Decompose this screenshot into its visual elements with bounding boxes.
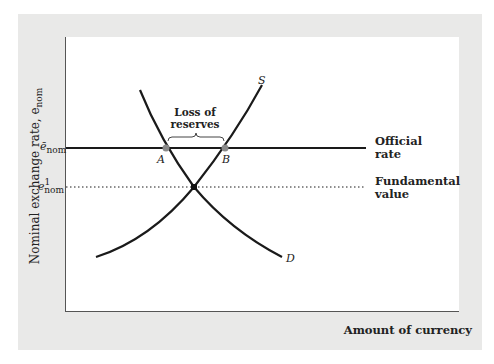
- supply-curve-label: S: [258, 74, 266, 87]
- fundamental-value-legend: Fundamentalvalue: [375, 175, 455, 201]
- point-b-label: B: [222, 153, 230, 166]
- x-axis-label: Amount of currency: [344, 323, 472, 337]
- fundamental-rate-tick: e1nom: [38, 177, 64, 195]
- point-a-label: A: [157, 153, 165, 166]
- official-rate-legend: Officialrate: [375, 135, 455, 161]
- point-b-marker: [222, 145, 229, 152]
- point-a-marker: [163, 145, 170, 152]
- equilibrium-marker: [191, 184, 197, 190]
- loss-of-reserves-label: Loss ofreserves: [160, 106, 230, 130]
- y-axis-label: Nominal exchange rate, enom: [28, 88, 44, 265]
- official-rate-tick: ēnom: [40, 140, 66, 155]
- demand-curve-label: D: [286, 252, 295, 265]
- reserves-brace: [168, 133, 224, 141]
